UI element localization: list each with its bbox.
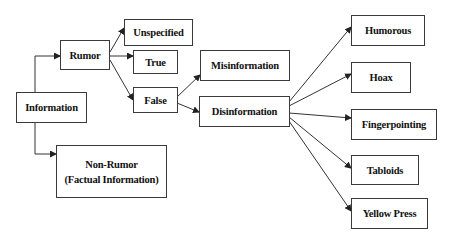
node-true: True: [133, 50, 178, 74]
node-disinformation: Disinformation: [199, 96, 290, 127]
node-fingerpointing: Fingerpointing: [351, 109, 437, 140]
node-humorous: Humorous: [351, 15, 425, 46]
node-rumor: Rumor: [60, 40, 110, 70]
edge-rumor-false: [110, 60, 133, 100]
edge-false-disinformation: [177, 103, 199, 112]
node-label: Fingerpointing: [362, 117, 426, 132]
node-label: Hoax: [369, 70, 392, 85]
node-label: Yellow Press: [363, 206, 417, 221]
node-hoax: Hoax: [351, 62, 411, 93]
node-label: Disinformation: [212, 104, 277, 119]
node-label: True: [145, 55, 166, 70]
edge-disinfo-fingerpointing: [289, 113, 351, 118]
node-label: Information: [25, 100, 78, 115]
node-label: Tabloids: [367, 163, 404, 178]
node-label: Misinformation: [211, 58, 279, 73]
edge-information-rumor: [35, 56, 60, 92]
node-label-line1: Non-Rumor: [64, 157, 158, 172]
edge-disinfo-humorous: [289, 27, 351, 102]
node-label: Unspecified: [133, 25, 183, 40]
node-information: Information: [16, 92, 87, 123]
node-misinformation: Misinformation: [200, 50, 290, 81]
edge-information-nonrumor: [35, 122, 56, 154]
node-false: False: [133, 87, 178, 113]
node-tabloids: Tabloids: [351, 155, 419, 185]
node-unspecified: Unspecified: [124, 19, 193, 46]
node-label: Rumor: [69, 48, 100, 63]
edge-false-misinformation: [177, 75, 200, 97]
diagram-canvas: Information Rumor Non-Rumor (Factual Inf…: [0, 0, 449, 240]
edge-disinfo-tabloids: [289, 117, 351, 168]
node-non-rumor: Non-Rumor (Factual Information): [56, 145, 167, 198]
edge-rumor-unspecified: [110, 28, 124, 52]
node-label-line2: (Factual Information): [64, 172, 158, 187]
node-label: False: [144, 93, 166, 108]
node-label: Humorous: [365, 23, 411, 38]
node-yellow-press: Yellow Press: [351, 198, 428, 229]
edge-disinfo-yellowpress: [289, 121, 351, 211]
